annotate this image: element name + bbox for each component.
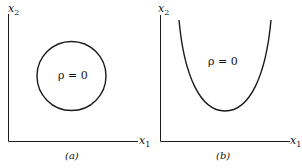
panel-a-x-axis-label: x1	[139, 134, 150, 149]
panel-b-region-label: ρ = 0	[208, 55, 238, 68]
panel-a-y-axis-label: x2	[8, 2, 19, 17]
panel-a-caption: (a)	[65, 150, 79, 161]
panel-b-caption: (b)	[216, 150, 230, 161]
diagram-canvas	[0, 0, 302, 168]
panel-b-x-axis-label: x1	[290, 134, 301, 149]
panel-b-y-axis-label: x2	[158, 2, 169, 17]
panel-a-region-label: ρ = 0	[58, 69, 88, 82]
